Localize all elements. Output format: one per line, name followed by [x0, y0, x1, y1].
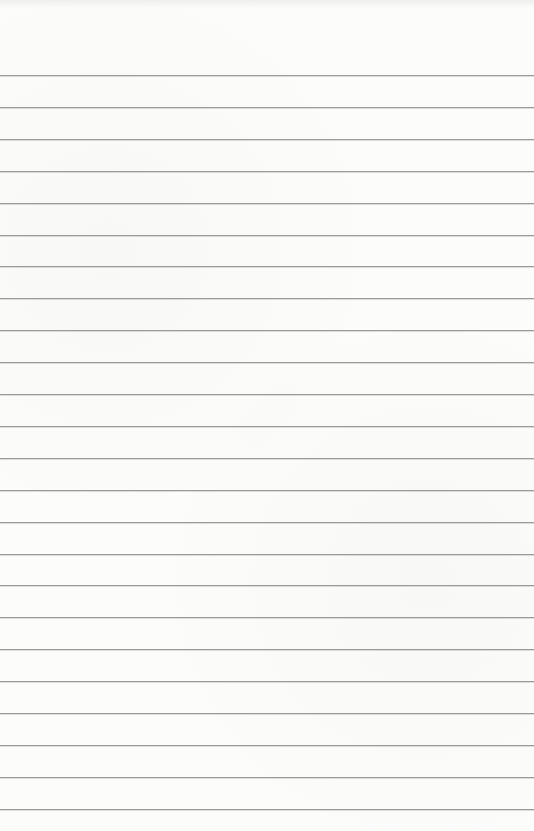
ruled-line: [0, 522, 534, 523]
ruled-line: [0, 713, 534, 714]
paper-top-edge: [0, 0, 534, 8]
ruled-line: [0, 362, 534, 363]
ruled-line: [0, 745, 534, 746]
ruled-line: [0, 490, 534, 491]
ruled-line: [0, 171, 534, 172]
ruled-line: [0, 585, 534, 586]
ruled-line: [0, 330, 534, 331]
ruled-line: [0, 426, 534, 427]
ruled-line: [0, 649, 534, 650]
ruled-line: [0, 203, 534, 204]
ruled-line: [0, 107, 534, 108]
lined-paper: [0, 0, 534, 831]
ruled-line: [0, 139, 534, 140]
ruled-line: [0, 681, 534, 682]
ruled-line: [0, 617, 534, 618]
ruled-line: [0, 298, 534, 299]
ruled-line: [0, 458, 534, 459]
ruled-line: [0, 777, 534, 778]
ruled-line: [0, 394, 534, 395]
ruled-line: [0, 554, 534, 555]
ruled-line: [0, 235, 534, 236]
ruled-line: [0, 75, 534, 76]
ruled-line: [0, 809, 534, 810]
ruled-line: [0, 266, 534, 267]
